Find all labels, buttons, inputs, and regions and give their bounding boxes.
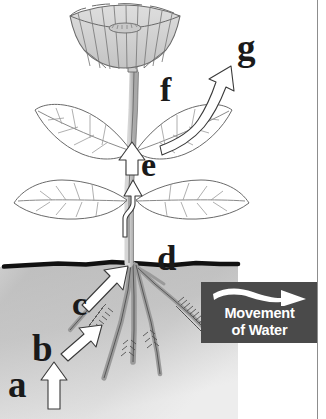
label-c: c [72,287,87,321]
label-f: f [160,73,171,107]
label-g: g [237,29,256,66]
label-d: d [157,241,176,276]
legend-text: Movement of Water [201,305,318,339]
label-a: a [8,366,27,403]
flower [70,4,180,72]
curved-right-arrow-icon [211,286,308,306]
legend-line-1: Movement [201,305,318,322]
label-b: b [32,330,53,367]
page-column-rule [317,0,318,419]
legend-box: Movement of Water [201,282,318,343]
label-e: e [141,148,156,182]
legend-line-2: of Water [201,322,318,339]
